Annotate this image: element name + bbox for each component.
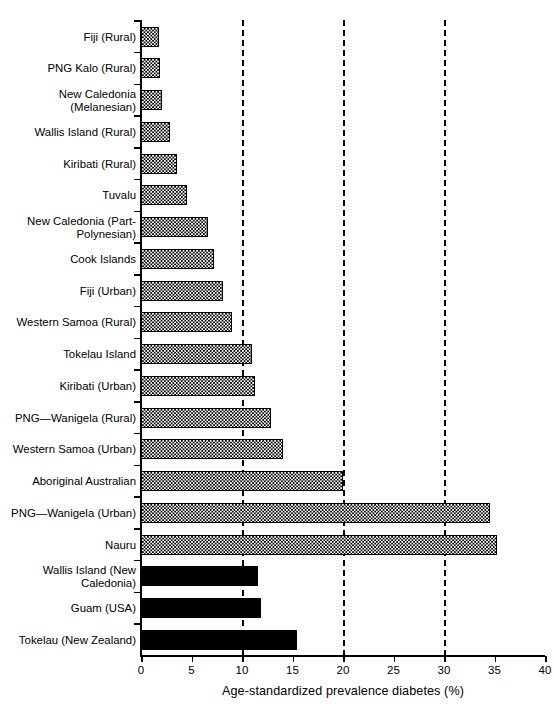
y-axis-tick: [134, 528, 140, 530]
x-axis-tick: [394, 656, 396, 662]
x-axis-tick: [444, 656, 446, 662]
category-label: Aboriginal Australian: [0, 475, 136, 487]
bar: [141, 439, 283, 459]
y-axis-tick: [134, 496, 140, 498]
bar: [141, 281, 223, 301]
category-label: Wallis Island (Rural): [0, 126, 136, 138]
y-axis-tick: [134, 274, 140, 276]
bar: [141, 630, 297, 650]
category-label: Tuvalu: [0, 189, 136, 201]
category-label: Kiribati (Rural): [0, 157, 136, 169]
bar-row: PNG—Wanigela (Rural): [0, 401, 554, 434]
category-label: Fiji (Urban): [0, 284, 136, 296]
bar-row: PNG Kalo (Rural): [0, 52, 554, 85]
bar-row: PNG—Wanigela (Urban): [0, 496, 554, 529]
y-axis-tick: [134, 401, 140, 403]
y-axis-tick: [134, 179, 140, 181]
bar-row: Cook Islands: [0, 242, 554, 275]
x-axis-tick: [293, 656, 295, 662]
y-axis-tick: [134, 52, 140, 54]
bar: [141, 598, 261, 618]
category-label: New Caledonia (Part- Polynesian): [0, 215, 136, 240]
x-axis-tick-label: 40: [538, 664, 551, 676]
bar-row: Tokelau Island: [0, 338, 554, 371]
x-axis-title: Age-standardized prevalence diabetes (%): [141, 684, 545, 698]
bar-row: Kiribati (Rural): [0, 147, 554, 180]
bar: [141, 566, 258, 586]
bar-row: Guam (USA): [0, 592, 554, 625]
bar-row: Tuvalu: [0, 179, 554, 212]
x-axis-tick: [545, 656, 547, 662]
bar: [141, 376, 255, 396]
bar-row: New Caledonia (Part- Polynesian): [0, 211, 554, 244]
category-label: PNG—Wanigela (Urban): [0, 507, 136, 519]
y-axis-tick: [134, 465, 140, 467]
y-axis-tick: [134, 369, 140, 371]
bar: [141, 408, 271, 428]
bar: [141, 217, 208, 237]
category-label: Wallis Island (New Caledonia): [0, 564, 136, 589]
category-label: Fiji (Rural): [0, 30, 136, 42]
bar: [141, 503, 490, 523]
category-label: Tokelau Island: [0, 348, 136, 360]
category-label: Western Samoa (Urban): [0, 443, 136, 455]
category-label: PNG—Wanigela (Rural): [0, 411, 136, 423]
bar: [141, 312, 232, 332]
bar-row: Fiji (Rural): [0, 20, 554, 53]
x-axis-tick: [495, 656, 497, 662]
y-axis-tick: [134, 147, 140, 149]
category-label: PNG Kalo (Rural): [0, 62, 136, 74]
bar-row: Wallis Island (Rural): [0, 115, 554, 148]
bar-row: New Caledonia (Melanesian): [0, 84, 554, 117]
y-axis-tick: [134, 592, 140, 594]
bar: [141, 185, 187, 205]
category-label: Nauru: [0, 538, 136, 550]
x-axis-tick: [192, 656, 194, 662]
y-axis-tick: [134, 433, 140, 435]
category-label: New Caledonia (Melanesian): [0, 88, 136, 113]
x-axis-tick: [242, 656, 244, 662]
x-axis-tick-label: 10: [235, 664, 248, 676]
x-axis-tick-label: 5: [188, 664, 195, 676]
bar: [141, 535, 497, 555]
x-axis-tick: [343, 656, 345, 662]
y-axis-tick: [134, 211, 140, 213]
category-label: Tokelau (New Zealand): [0, 634, 136, 646]
y-axis-tick: [134, 306, 140, 308]
y-axis-tick: [134, 20, 140, 22]
category-label: Western Samoa (Rural): [0, 316, 136, 328]
x-axis-tick-label: 35: [488, 664, 501, 676]
bar: [141, 27, 159, 47]
bar-row: Western Samoa (Rural): [0, 306, 554, 339]
x-axis-tick: [141, 656, 143, 662]
bar-row: Tokelau (New Zealand): [0, 623, 554, 656]
bar-row: Kiribati (Urban): [0, 369, 554, 402]
bar: [141, 90, 162, 110]
bar-row: Western Samoa (Urban): [0, 433, 554, 466]
bar-row: Nauru: [0, 528, 554, 561]
x-axis-tick-label: 30: [437, 664, 450, 676]
y-axis-tick: [134, 242, 140, 244]
x-axis-tick-label: 20: [336, 664, 349, 676]
y-axis-tick: [134, 560, 140, 562]
y-axis-tick: [134, 84, 140, 86]
x-axis-tick-label: 25: [387, 664, 400, 676]
bar: [141, 58, 160, 78]
category-label: Guam (USA): [0, 602, 136, 614]
bar: [141, 344, 252, 364]
bar-row: Wallis Island (New Caledonia): [0, 560, 554, 593]
category-label: Cook Islands: [0, 253, 136, 265]
bar: [141, 154, 177, 174]
bar: [141, 249, 214, 269]
y-axis-tick: [134, 115, 140, 117]
bar-row: Fiji (Urban): [0, 274, 554, 307]
bar: [141, 122, 170, 142]
bar-row: Aboriginal Australian: [0, 465, 554, 498]
bar-chart: Fiji (Rural)PNG Kalo (Rural)New Caledoni…: [0, 0, 554, 713]
x-axis-tick-label: 15: [286, 664, 299, 676]
bar: [141, 471, 343, 491]
category-label: Kiribati (Urban): [0, 380, 136, 392]
y-axis-tick: [134, 338, 140, 340]
y-axis-tick: [134, 623, 140, 625]
x-axis-tick-label: 0: [138, 664, 145, 676]
